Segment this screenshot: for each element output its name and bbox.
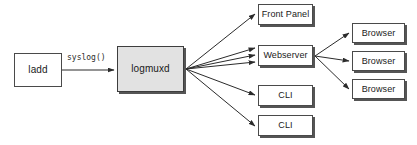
edge-logmuxd-to-front-panel bbox=[186, 14, 255, 69]
node-logmuxd[interactable]: logmuxd bbox=[117, 46, 184, 92]
node-browser-2[interactable]: Browser bbox=[352, 51, 405, 71]
edge-logmuxd-to-webserver-b bbox=[186, 55, 255, 69]
node-browser-1[interactable]: Browser bbox=[352, 23, 405, 43]
edge-webserver-to-browser-1 bbox=[315, 33, 349, 56]
node-webserver[interactable]: Webserver bbox=[258, 45, 313, 66]
node-cli-1[interactable]: CLI bbox=[258, 85, 313, 106]
edge-webserver-to-browser-3 bbox=[315, 56, 349, 89]
edge-logmuxd-to-cli-2 bbox=[186, 69, 255, 126]
architecture-diagram: ladd logmuxd Front Panel Webserver CLI C… bbox=[0, 0, 417, 145]
node-browser-3-label: Browser bbox=[362, 85, 396, 94]
node-webserver-label: Webserver bbox=[263, 51, 307, 60]
node-ladd[interactable]: ladd bbox=[14, 53, 62, 87]
node-front-panel[interactable]: Front Panel bbox=[258, 4, 313, 25]
connector-arrows bbox=[62, 14, 349, 126]
syslog-call-label: syslog() bbox=[67, 54, 106, 62]
edge-webserver-to-browser-2 bbox=[315, 56, 349, 61]
node-browser-3[interactable]: Browser bbox=[352, 79, 405, 99]
edge-logmuxd-to-cli-1 bbox=[186, 69, 255, 95]
node-browser-2-label: Browser bbox=[362, 57, 396, 66]
edge-layer bbox=[0, 0, 417, 145]
node-cli-1-label: CLI bbox=[278, 91, 292, 100]
node-cli-2[interactable]: CLI bbox=[258, 115, 313, 136]
node-browser-1-label: Browser bbox=[362, 29, 396, 38]
node-front-panel-label: Front Panel bbox=[262, 10, 310, 19]
node-logmuxd-label: logmuxd bbox=[131, 64, 170, 74]
node-cli-2-label: CLI bbox=[278, 121, 292, 130]
node-ladd-label: ladd bbox=[28, 65, 47, 75]
